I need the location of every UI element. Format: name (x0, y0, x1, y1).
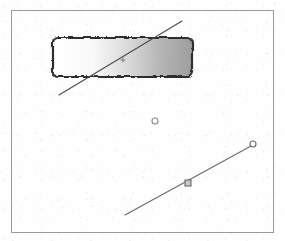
line-endpoint-circle (250, 141, 256, 147)
vector-drawing-layer (0, 0, 285, 241)
center-circle-marker (152, 118, 158, 124)
diagram-canvas (0, 0, 285, 241)
line-midpoint-square (185, 180, 191, 186)
